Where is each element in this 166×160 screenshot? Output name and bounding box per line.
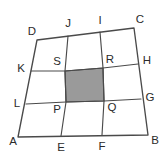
vertex-label-C: C xyxy=(136,13,144,25)
vertex-label-G: G xyxy=(146,91,155,103)
shaded-cell-SRQP xyxy=(65,68,104,102)
vertex-label-B: B xyxy=(151,134,159,146)
vertex-label-H: H xyxy=(143,54,151,66)
geometry-figure: ABCDEFGHIJKLPQRS xyxy=(0,0,166,160)
vertex-label-L: L xyxy=(14,97,21,109)
figure-canvas: ABCDEFGHIJKLPQRS xyxy=(0,0,166,160)
vertex-label-J: J xyxy=(65,17,71,29)
vertex-label-I: I xyxy=(98,14,101,26)
vertex-label-D: D xyxy=(28,25,36,37)
vertex-label-E: E xyxy=(57,141,65,153)
vertex-label-R: R xyxy=(106,53,114,65)
vertex-label-S: S xyxy=(53,55,61,67)
vertex-label-P: P xyxy=(53,103,61,115)
vertex-label-Q: Q xyxy=(108,101,117,113)
vertex-label-A: A xyxy=(9,135,17,147)
vertex-label-K: K xyxy=(17,62,25,74)
vertex-label-F: F xyxy=(98,140,105,152)
